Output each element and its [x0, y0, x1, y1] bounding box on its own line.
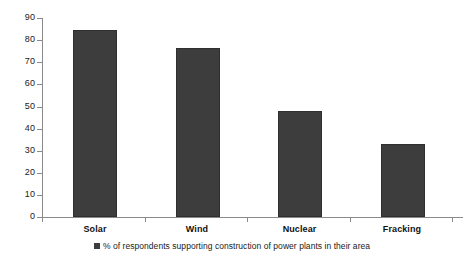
y-axis-label-text: 20	[3, 168, 35, 177]
y-axis-label-80: 80	[0, 35, 35, 44]
x-axis-category-fracking: Fracking	[351, 224, 453, 234]
y-axis-label-20: 20	[0, 168, 35, 177]
x-axis-tick	[452, 217, 453, 222]
y-axis-tick	[37, 173, 42, 174]
y-axis-label-text: 0	[3, 212, 35, 221]
y-axis-label-70: 70	[0, 57, 35, 66]
bar-wind	[176, 48, 220, 217]
y-axis-label-30: 30	[0, 146, 35, 155]
bar-chart: 90 80 70 60 50 40 30 20 10 0 S	[0, 0, 464, 256]
y-axis-label-text: 50	[3, 102, 35, 111]
y-axis-label-50: 50	[0, 102, 35, 111]
y-axis-label-text: 30	[3, 146, 35, 155]
x-axis-tick	[145, 217, 146, 222]
x-axis-category-solar: Solar	[43, 224, 147, 234]
y-axis-line	[42, 18, 43, 218]
y-axis-tick	[37, 151, 42, 152]
y-axis-tick	[37, 84, 42, 85]
y-axis-label-10: 10	[0, 190, 35, 199]
chart-legend: % of respondents supporting construction…	[0, 241, 464, 251]
y-axis-label-text: 70	[3, 57, 35, 66]
legend-swatch-icon	[94, 243, 100, 249]
x-axis-category-nuclear: Nuclear	[248, 224, 351, 234]
x-axis-category-wind: Wind	[146, 224, 248, 234]
y-axis-label-text: 60	[3, 79, 35, 88]
x-axis-line	[42, 217, 463, 218]
y-axis-tick	[37, 195, 42, 196]
legend-label: % of respondents supporting construction…	[103, 241, 370, 251]
y-axis-tick	[37, 18, 42, 19]
x-axis-tick	[42, 217, 43, 222]
bar-nuclear	[278, 111, 322, 217]
y-axis-label-40: 40	[0, 124, 35, 133]
y-axis-tick	[37, 62, 42, 63]
y-axis-label-text: 90	[3, 13, 35, 22]
y-axis-tick	[37, 40, 42, 41]
y-axis-tick	[37, 129, 42, 130]
y-axis-tick	[37, 107, 42, 108]
y-axis-label-90: 90	[0, 13, 35, 22]
y-axis-label-0: 0	[0, 212, 35, 221]
y-axis-label-text: 80	[3, 35, 35, 44]
x-axis-tick	[247, 217, 248, 222]
bar-fracking	[381, 144, 425, 217]
bar-solar	[73, 30, 117, 217]
y-axis-label-60: 60	[0, 79, 35, 88]
y-axis-label-text: 40	[3, 124, 35, 133]
y-axis-label-text: 10	[3, 190, 35, 199]
x-axis-tick	[350, 217, 351, 222]
